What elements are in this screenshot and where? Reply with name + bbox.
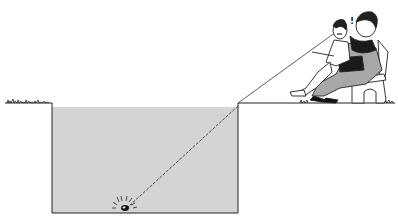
exclamation-mark: ! <box>350 16 354 26</box>
refraction-illustration: ! <box>0 0 398 221</box>
pool-of-water <box>52 107 238 213</box>
ground-left <box>5 99 52 103</box>
